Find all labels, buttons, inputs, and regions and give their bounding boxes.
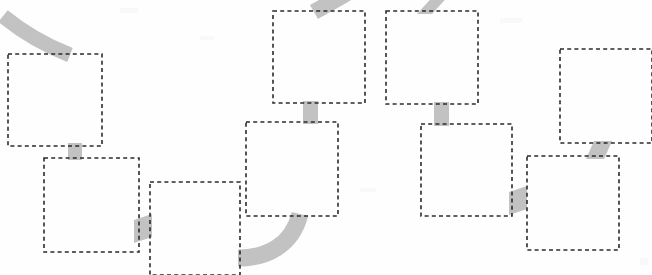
node-box-9[interactable] xyxy=(527,156,619,250)
connector-curve-into-box-1 xyxy=(3,16,70,55)
node-box-6[interactable] xyxy=(246,122,338,216)
node-box-2[interactable] xyxy=(44,158,139,252)
node-box-3[interactable] xyxy=(150,182,240,275)
node-box-4[interactable] xyxy=(273,11,365,103)
connector-box-5-to-box-7 xyxy=(434,102,449,126)
node-box-7[interactable] xyxy=(421,124,512,216)
node-box-5[interactable] xyxy=(386,11,478,104)
connector-curve-box-6-to-box-3 xyxy=(238,214,300,258)
diagram-canvas: Dashed box flow diagram xyxy=(0,0,652,275)
node-box-1[interactable] xyxy=(8,54,102,146)
node-box-8[interactable] xyxy=(560,49,652,143)
flow-diagram xyxy=(0,0,652,275)
connector-box-4-to-box-6 xyxy=(303,101,318,124)
